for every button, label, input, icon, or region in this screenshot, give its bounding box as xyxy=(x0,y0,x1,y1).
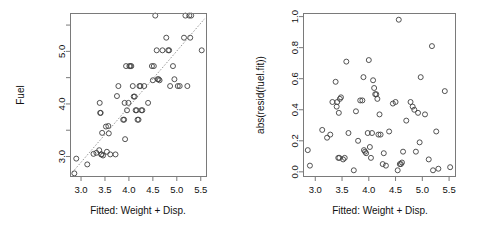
data-points-right xyxy=(305,17,452,173)
data-point xyxy=(387,129,392,134)
y-tick-label: 0.0 xyxy=(289,165,300,178)
y-axis-ticks-right xyxy=(299,17,303,172)
data-point xyxy=(85,162,90,167)
data-point xyxy=(353,109,358,114)
data-point xyxy=(338,95,343,100)
data-point xyxy=(351,168,356,173)
x-tick-label: 5.5 xyxy=(442,184,455,195)
x-tick-label: 4.5 xyxy=(146,184,159,195)
identity-reference-line xyxy=(72,19,204,173)
scatter-panel-right: 3.03.54.04.55.05.5 0.00.20.40.60.81.0 Fi… xyxy=(242,0,484,237)
data-point xyxy=(381,151,386,156)
data-point xyxy=(372,86,377,91)
data-point xyxy=(97,100,102,105)
data-point xyxy=(371,78,376,83)
x-tick-label: 3.5 xyxy=(335,184,348,195)
x-axis-tick-labels-left: 3.03.54.04.55.05.5 xyxy=(74,184,207,195)
x-axis-ticks-right xyxy=(315,177,449,181)
data-point xyxy=(448,165,453,170)
plot-frame-right xyxy=(304,14,456,177)
data-point xyxy=(356,138,361,143)
data-point xyxy=(100,130,105,135)
data-point xyxy=(395,168,400,173)
data-point xyxy=(330,99,335,104)
data-point xyxy=(116,84,121,89)
data-point xyxy=(401,149,406,154)
data-point xyxy=(91,151,96,156)
x-tick-label: 3.0 xyxy=(309,184,322,195)
data-point xyxy=(368,155,373,160)
y-tick-label: 4.0 xyxy=(56,97,67,110)
data-point xyxy=(104,149,109,154)
data-point xyxy=(185,84,190,89)
data-point xyxy=(404,118,409,123)
data-point xyxy=(336,110,341,115)
data-point xyxy=(325,135,330,140)
y-axis-tick-labels-left: 3.04.05.0 xyxy=(56,45,67,163)
x-tick-label: 5.5 xyxy=(194,184,207,195)
data-point xyxy=(164,35,169,40)
x-tick-label: 4.5 xyxy=(389,184,402,195)
scatter-panel-left: 3.03.54.04.55.05.5 3.04.05.0 Fitted: Wei… xyxy=(0,0,242,237)
x-axis-tick-labels-right: 3.03.54.04.55.05.5 xyxy=(309,184,456,195)
data-point xyxy=(74,156,79,161)
data-point xyxy=(422,112,427,117)
data-point xyxy=(436,166,441,171)
data-point xyxy=(416,110,421,115)
data-point xyxy=(130,84,135,89)
x-tick-label: 4.0 xyxy=(122,184,135,195)
data-point xyxy=(429,44,434,49)
x-axis-title-left: Fitted: Weight + Disp. xyxy=(90,205,186,216)
data-point xyxy=(181,35,186,40)
data-point xyxy=(396,17,401,22)
data-point xyxy=(426,157,431,162)
data-point xyxy=(328,132,333,137)
data-point xyxy=(367,145,372,150)
data-point xyxy=(168,84,173,89)
data-points-left xyxy=(72,13,204,176)
data-point xyxy=(346,131,351,136)
reference-line xyxy=(72,19,204,173)
y-tick-label: 5.0 xyxy=(56,45,67,58)
x-tick-label: 3.5 xyxy=(98,184,111,195)
data-point xyxy=(417,140,422,145)
data-point xyxy=(431,168,436,173)
data-point xyxy=(434,129,439,134)
data-point xyxy=(305,148,310,153)
data-point xyxy=(344,59,349,64)
x-tick-label: 3.0 xyxy=(74,184,87,195)
y-tick-label: 0.6 xyxy=(289,72,300,85)
right-plot-svg: 3.03.54.04.55.05.5 0.00.20.40.60.81.0 Fi… xyxy=(242,0,484,237)
y-tick-label: 0.8 xyxy=(289,41,300,54)
x-axis-title-right: Fitted: Weight + Disp. xyxy=(332,205,428,216)
data-point xyxy=(366,58,371,63)
figure-canvas: 3.03.54.04.55.05.5 3.04.05.0 Fitted: Wei… xyxy=(0,0,484,237)
y-tick-label: 1.0 xyxy=(289,10,300,23)
data-point xyxy=(106,131,111,136)
y-axis-title-left: Fuel xyxy=(15,85,26,104)
y-axis-title-right: abs(resid(fuel.fit)) xyxy=(255,56,266,134)
data-point xyxy=(375,96,380,101)
data-point xyxy=(413,149,418,154)
data-point xyxy=(199,48,204,53)
data-point xyxy=(113,152,118,157)
y-tick-label: 3.0 xyxy=(56,150,67,163)
data-point xyxy=(170,64,175,69)
data-point xyxy=(307,163,312,168)
y-tick-label: 0.4 xyxy=(289,103,300,116)
y-axis-tick-labels-right: 0.00.20.40.60.81.0 xyxy=(289,10,300,178)
data-point xyxy=(72,171,77,176)
data-point xyxy=(123,137,128,142)
x-tick-label: 5.0 xyxy=(170,184,183,195)
data-point xyxy=(418,75,423,80)
x-axis-ticks-left xyxy=(81,177,201,181)
data-point xyxy=(146,100,151,105)
x-tick-label: 5.0 xyxy=(416,184,429,195)
data-point xyxy=(377,112,382,117)
data-point xyxy=(361,75,366,80)
data-point xyxy=(333,79,338,84)
data-point xyxy=(442,89,447,94)
data-point xyxy=(114,94,119,99)
x-tick-label: 4.0 xyxy=(362,184,375,195)
data-point xyxy=(160,48,165,53)
